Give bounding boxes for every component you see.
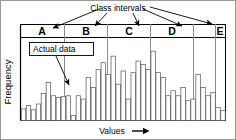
histogram-bar [46, 83, 50, 121]
histogram-bar [136, 61, 140, 120]
histogram-bar [96, 69, 100, 120]
histogram-bar [176, 96, 180, 121]
class-intervals-annotation: Class intervals [90, 3, 145, 13]
histogram-bar [211, 92, 215, 120]
histogram-bar [121, 71, 125, 121]
histogram-bar [51, 96, 55, 121]
class-label-c: C [125, 25, 133, 37]
histogram-bar [101, 63, 105, 121]
histogram-bar [86, 78, 90, 121]
y-axis-label: Frequency [2, 59, 13, 104]
histogram-bar [166, 96, 170, 121]
histogram-bar [151, 51, 155, 120]
histogram-bar [36, 104, 40, 121]
histogram-bar [76, 96, 80, 121]
histogram-bar [221, 111, 225, 121]
actual-data-annotation: Actual data [33, 44, 76, 54]
histogram-figure: A B C D E Class intervals Actual data [0, 0, 236, 140]
histogram-bar [41, 93, 45, 120]
histogram-svg: A B C D E Class intervals Actual data [0, 0, 236, 140]
histogram-bar [206, 96, 210, 121]
histogram-bar [61, 97, 65, 121]
histogram-bar [201, 88, 205, 121]
histogram-bar [186, 101, 190, 121]
histogram-bar [116, 84, 120, 120]
x-axis-label: Values [99, 126, 124, 136]
histogram-bar [71, 116, 75, 121]
histogram-bar [56, 97, 60, 120]
histogram-bar [171, 91, 175, 121]
histogram-bar [196, 74, 200, 120]
histogram-bar [26, 106, 30, 121]
histogram-bar [111, 56, 115, 120]
histogram-bar [146, 69, 150, 120]
class-label-b: B [82, 25, 90, 37]
histogram-bar [156, 73, 160, 121]
class-label-d: D [168, 25, 176, 37]
histogram-bar [131, 73, 135, 121]
histogram-bar [91, 88, 95, 121]
histogram-bar [126, 99, 130, 120]
histogram-bar [106, 74, 110, 120]
class-label-e: E [216, 25, 223, 37]
histogram-bar [21, 109, 25, 121]
histogram-bar [181, 88, 185, 121]
histogram-bar [161, 78, 165, 121]
histogram-bar [81, 99, 85, 120]
class-label-a: A [38, 25, 46, 37]
histogram-bar [191, 99, 195, 120]
histogram-bar [216, 107, 220, 120]
histogram-bar [31, 110, 35, 121]
histogram-bar [66, 96, 70, 121]
histogram-bar [141, 64, 145, 120]
